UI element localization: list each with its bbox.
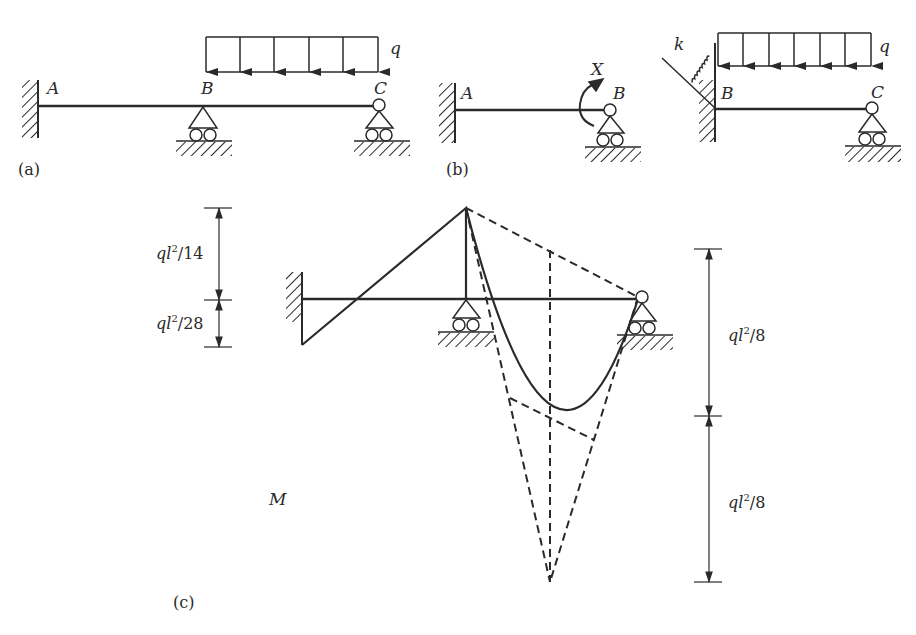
roller-support-c-b2 bbox=[845, 102, 901, 162]
dim-label-ql2-28: ql2/28 bbox=[156, 314, 204, 332]
label-a-b: A bbox=[461, 85, 473, 102]
panel-tag-c: (c) bbox=[173, 595, 194, 611]
roller-support-c bbox=[354, 99, 410, 156]
beam-diagram-canvas bbox=[0, 0, 916, 635]
distributed-load-q bbox=[206, 37, 378, 72]
moment-x-arrow bbox=[580, 79, 603, 126]
label-a: A bbox=[47, 80, 59, 97]
roller-support-b bbox=[176, 107, 232, 156]
label-b-b: B bbox=[613, 85, 626, 102]
label-k: k bbox=[674, 36, 684, 53]
dimension-left bbox=[204, 208, 232, 347]
panel-tag-b: (b) bbox=[446, 162, 469, 178]
label-c: C bbox=[374, 80, 387, 97]
label-x: X bbox=[591, 61, 603, 78]
panel-c bbox=[204, 208, 722, 582]
dimension-right bbox=[694, 249, 722, 582]
label-q2: q bbox=[879, 38, 890, 55]
label-c-b2: C bbox=[871, 84, 884, 101]
dim-label-ql2-8-bottom: ql2/8 bbox=[728, 493, 765, 511]
roller-support-b-c bbox=[438, 300, 494, 347]
distributed-load-q2 bbox=[718, 33, 871, 66]
label-b-b2: B bbox=[721, 85, 734, 102]
panel-a bbox=[22, 37, 410, 156]
dim-label-ql2-8-top: ql2/8 bbox=[728, 326, 765, 344]
fixed-support-a bbox=[22, 80, 38, 138]
panel-tag-a: (a) bbox=[18, 162, 40, 178]
dim-label-ql2-14: ql2/14 bbox=[156, 244, 204, 262]
label-b: B bbox=[201, 80, 214, 97]
fixed-support-a-b bbox=[439, 83, 455, 143]
spring-k-icon bbox=[685, 55, 717, 82]
roller-support-b-b bbox=[585, 104, 641, 162]
panel-b-spring bbox=[662, 33, 901, 162]
label-m: M bbox=[269, 491, 286, 508]
label-q: q bbox=[390, 40, 401, 57]
